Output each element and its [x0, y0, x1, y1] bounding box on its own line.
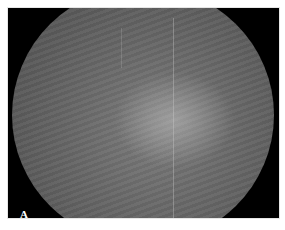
fundus-image-frame: A: [7, 7, 280, 219]
vessel-line: [173, 18, 174, 218]
vessel-line-faint: [121, 28, 122, 68]
orientation-notch: [239, 7, 266, 29]
fundus-photo: [12, 7, 274, 219]
panel-label: A: [20, 209, 28, 219]
